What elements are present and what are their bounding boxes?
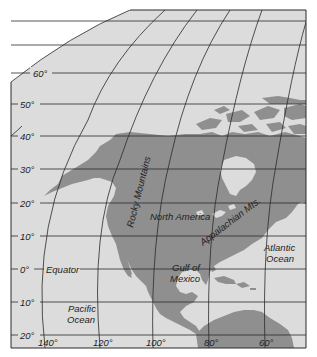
pacific-ocean-label-line2: Ocean xyxy=(67,314,95,325)
lat-label-20: 20° xyxy=(19,198,35,209)
lat-label-minus-20: 20° xyxy=(19,330,35,341)
pacific-ocean-label-line1: Pacific xyxy=(68,303,96,314)
map-projection: 60° 50° 40° 30° 20° 10° 0° 10° 20° 140° … xyxy=(0,0,317,357)
lon-label-100: 100° xyxy=(146,337,166,348)
atlantic-ocean-label-line1: Atlantic xyxy=(263,242,295,253)
gulf-of-mexico-label-line2: Mexico xyxy=(170,273,200,284)
lon-label-60: 60° xyxy=(259,337,274,348)
lat-label-0: 0° xyxy=(20,264,29,275)
equator-label: Equator xyxy=(46,264,80,275)
lat-label-minus-10: 10° xyxy=(20,297,35,308)
lat-label-30: 30° xyxy=(20,164,35,175)
lat-label-40: 40° xyxy=(20,131,35,142)
gulf-of-mexico-label-line1: Gulf of xyxy=(172,262,201,273)
lat-label-60: 60° xyxy=(33,68,48,79)
atlantic-ocean-label-line2: Ocean xyxy=(266,253,294,264)
lon-label-120: 120° xyxy=(93,337,113,348)
lat-label-50: 50° xyxy=(20,99,35,110)
lon-label-140: 140° xyxy=(38,337,58,348)
lat-label-10: 10° xyxy=(20,231,35,242)
north-america-label: North America xyxy=(150,211,210,222)
lon-label-80: 80° xyxy=(204,337,219,348)
